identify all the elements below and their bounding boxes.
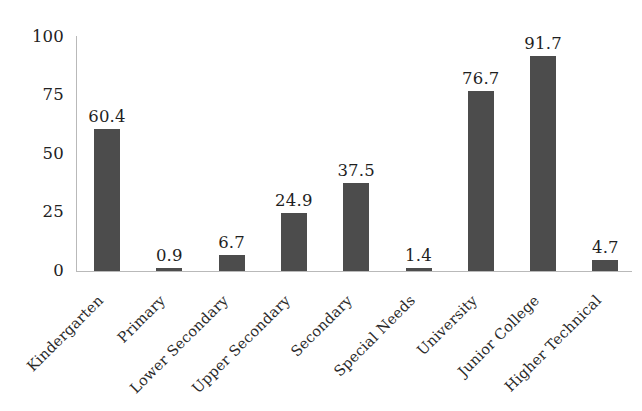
y-axis-tick-label: 0	[18, 263, 64, 280]
plot-area: 0255075100 60.40.96.724.937.51.476.791.7…	[0, 0, 642, 411]
bar-chart: 0255075100 60.40.96.724.937.51.476.791.7…	[0, 0, 642, 411]
bar-value-label: 0.9	[156, 248, 183, 265]
x-axis-line	[76, 271, 632, 272]
bar[interactable]	[468, 91, 494, 271]
bar-value-label: 6.7	[218, 235, 245, 252]
bar-value-label: 91.7	[524, 36, 562, 53]
x-axis-category-label: Kindergarten	[24, 292, 106, 374]
y-axis-line	[76, 36, 77, 272]
y-axis-tick-label: 75	[18, 87, 64, 104]
bar[interactable]	[219, 255, 245, 271]
x-axis-category-label: Primary	[115, 292, 169, 346]
x-axis-category-label: Secondary	[288, 292, 356, 360]
bar[interactable]	[592, 260, 618, 271]
x-axis-category-label: University	[414, 292, 480, 358]
bar-value-label: 1.4	[405, 248, 432, 265]
y-axis-tick-label: 50	[18, 146, 64, 163]
bar-value-label: 37.5	[337, 163, 375, 180]
bar-value-label: 76.7	[462, 71, 500, 88]
bar-value-label: 24.9	[275, 193, 313, 210]
y-axis-tick-label: 25	[18, 204, 64, 221]
bar[interactable]	[343, 183, 369, 271]
bar[interactable]	[281, 213, 307, 271]
bar[interactable]	[406, 268, 432, 271]
bar-value-label: 4.7	[592, 240, 619, 257]
bar[interactable]	[530, 56, 556, 271]
bar[interactable]	[94, 129, 120, 271]
y-axis-tick-label: 100	[18, 28, 64, 45]
bar-value-label: 60.4	[88, 109, 126, 126]
bar[interactable]	[156, 268, 182, 271]
